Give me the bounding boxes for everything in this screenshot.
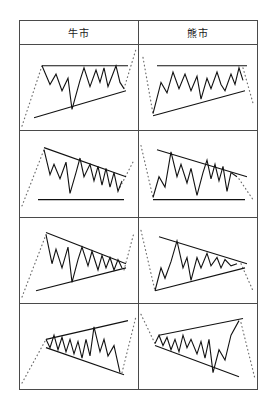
approach-exit-dotted-line	[241, 322, 255, 378]
trendline-resistance-falling	[159, 236, 247, 263]
table-row	[20, 131, 257, 217]
price-series-price	[46, 234, 122, 282]
column-header-bull: 牛市	[20, 21, 139, 44]
approach-entry-dotted-line	[141, 146, 153, 198]
price-series-price	[46, 327, 120, 373]
table-row	[20, 304, 257, 389]
approach-exit-dotted-line	[122, 316, 136, 372]
approach-entry-dotted-line	[22, 339, 46, 383]
approach-exit-dotted-line	[239, 179, 253, 200]
trendline-resistance-rising	[46, 320, 128, 339]
approach-exit-dotted-line	[124, 49, 136, 89]
approach-exit-dotted-line	[243, 68, 253, 103]
table-header-row: 牛市 熊市	[20, 21, 257, 45]
chart-broadening-formation-bull	[20, 304, 138, 389]
trendline-resistance-falling	[44, 148, 126, 177]
chart-ascending-triangle-bear	[139, 45, 257, 130]
chart-cell-ascending-triangle-bear	[139, 45, 257, 130]
column-header-bull-label: 牛市	[68, 25, 90, 40]
price-series-price	[153, 68, 243, 114]
trendline-support-rising	[36, 267, 126, 290]
chart-descending-triangle-bear	[139, 131, 257, 216]
trendline-support-rising	[155, 267, 245, 290]
table-row	[20, 45, 257, 131]
approach-exit-dotted-line	[241, 263, 253, 290]
chart-cell-symmetrical-triangle-bear	[139, 218, 257, 303]
price-series-price	[153, 152, 237, 198]
chart-broadening-formation-bear	[139, 304, 257, 389]
chart-symmetrical-triangle-bull	[20, 218, 138, 303]
chart-cell-broadening-formation-bull	[20, 304, 139, 389]
approach-entry-dotted-line	[141, 230, 155, 290]
chart-cell-ascending-triangle-bull	[20, 45, 139, 130]
pattern-table: 牛市 熊市	[19, 20, 258, 390]
approach-entry-dotted-line	[141, 314, 155, 343]
column-header-bear-label: 熊市	[187, 25, 209, 40]
chart-cell-broadening-formation-bear	[139, 304, 257, 389]
approach-exit-dotted-line	[120, 160, 134, 187]
chart-cell-descending-triangle-bull	[20, 131, 139, 216]
trendline-support-rising	[153, 91, 245, 116]
approach-entry-dotted-line	[22, 66, 42, 126]
chart-descending-triangle-bull	[20, 131, 138, 216]
approach-exit-dotted-line	[124, 232, 134, 269]
approach-entry-dotted-line	[22, 150, 44, 206]
table-row	[20, 218, 257, 304]
chart-symmetrical-triangle-bear	[139, 218, 257, 303]
trendline-support-rising	[34, 91, 126, 118]
trendline-resistance-rising	[159, 318, 243, 335]
chart-cell-descending-triangle-bear	[139, 131, 257, 216]
price-series-price	[155, 320, 239, 372]
chart-cell-symmetrical-triangle-bull	[20, 218, 139, 303]
approach-entry-dotted-line	[22, 234, 46, 296]
trendline-support-falling	[155, 345, 239, 376]
column-header-bear: 熊市	[139, 21, 257, 44]
chart-ascending-triangle-bull	[20, 45, 138, 130]
trendline-support-falling	[46, 347, 124, 374]
approach-entry-dotted-line	[143, 57, 153, 113]
